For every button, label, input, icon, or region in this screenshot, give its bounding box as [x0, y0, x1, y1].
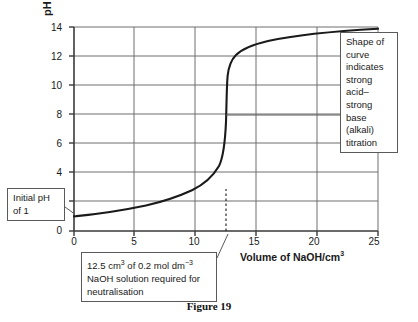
neutralisation-text-pre: 12.5 cm: [87, 260, 121, 271]
figure-container: pH Volume of NaOH/cm3 14 12 10 8 6 4 2 0…: [0, 0, 418, 322]
neutralisation-superscript-conc: −3: [185, 259, 193, 266]
titration-curve-line: [74, 29, 378, 217]
annotation-shape-of-curve: Shape of curve indicates strong acid– st…: [340, 32, 398, 153]
neutralisation-text-rest: NaOH solution required for neutralisatio…: [87, 273, 200, 297]
leader-line-neutralisation: [217, 234, 228, 258]
annotation-initial-ph: Initial pH of 1: [7, 188, 65, 221]
annotation-neutralisation: 12.5 cm3 of 0.2 mol dm−3 NaOH solution r…: [81, 252, 217, 302]
figure-caption: Figure 19: [0, 300, 418, 312]
neutralisation-text-mid: of 0.2 mol dm: [125, 260, 185, 271]
